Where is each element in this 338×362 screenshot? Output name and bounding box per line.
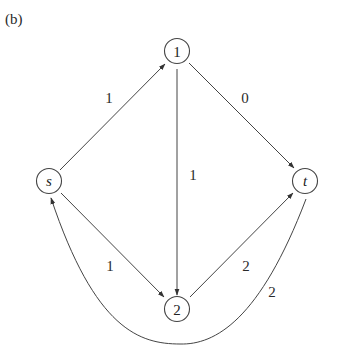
edge-s-1	[60, 64, 165, 170]
graph-diagram: 1 0 1 1 2 2 1 s t 2	[0, 0, 338, 362]
weight-s-1: 1	[105, 90, 113, 106]
edge-2-t	[190, 193, 293, 297]
edge-s-2	[61, 193, 164, 297]
weight-s-2: 1	[106, 258, 114, 274]
weight-1-2: 1	[189, 167, 197, 183]
svg-text:1: 1	[173, 44, 181, 60]
svg-text:s: s	[46, 173, 52, 189]
weight-2-t: 2	[242, 258, 250, 274]
weight-t-s: 2	[268, 284, 276, 300]
node-s: s	[37, 169, 62, 194]
weight-1-t: 0	[241, 90, 249, 106]
node-t: t	[293, 169, 318, 194]
edge-t-s	[51, 198, 306, 344]
svg-text:2: 2	[173, 302, 181, 318]
edge-1-t	[189, 63, 294, 168]
node-1: 1	[165, 39, 190, 64]
node-2: 2	[165, 297, 190, 322]
